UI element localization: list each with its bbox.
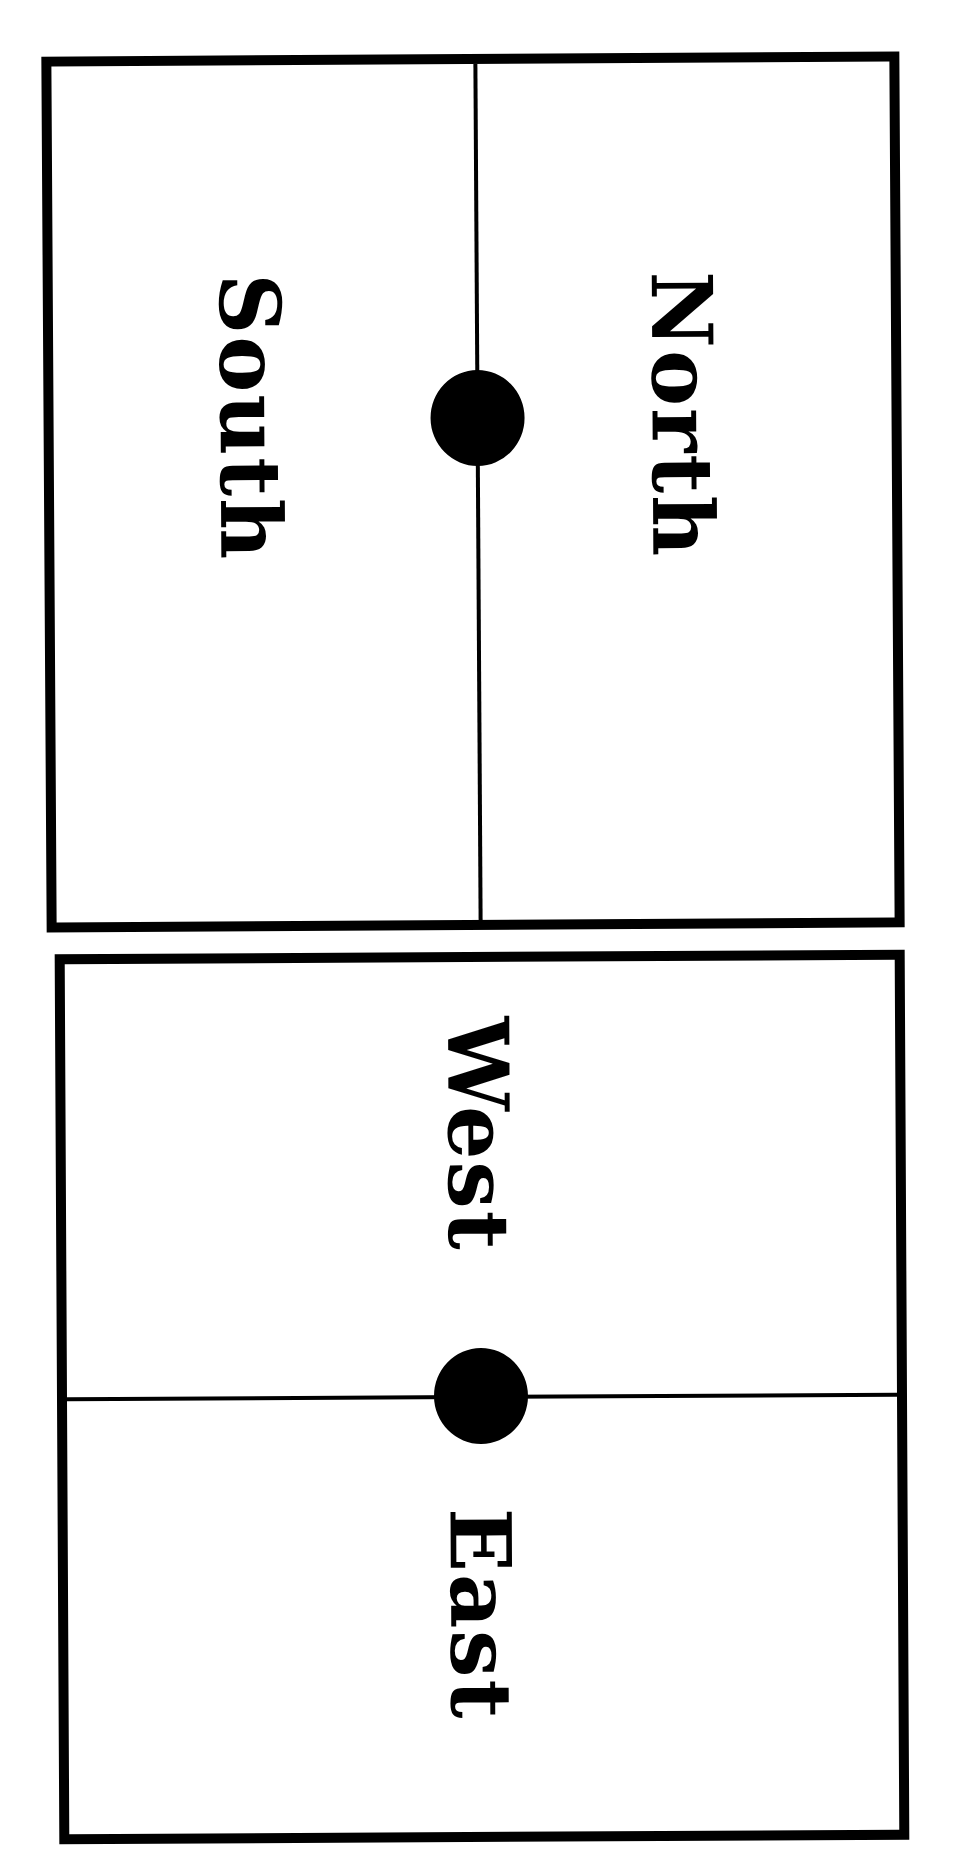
north-label: North — [639, 271, 725, 558]
south-label: South — [207, 273, 293, 561]
north-south-divider-line — [473, 64, 482, 920]
center-dot-icon — [430, 370, 525, 467]
west-label: West — [435, 1016, 520, 1251]
center-dot-icon — [434, 1348, 529, 1444]
east-label: East — [438, 1508, 523, 1721]
west-east-card: West East — [55, 950, 910, 1844]
north-south-card: South North — [41, 51, 904, 932]
